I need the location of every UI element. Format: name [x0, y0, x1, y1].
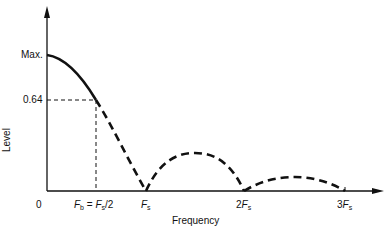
- series-solid-mainlobe: [47, 55, 96, 100]
- x-axis-arrow-icon: [372, 188, 384, 194]
- series-dashed-lobe-3: [244, 177, 345, 191]
- chart-plot-area: [0, 0, 388, 230]
- xtick-fb: Fb = Fs/2: [74, 200, 113, 211]
- xtick-fb-eq: =: [84, 199, 95, 210]
- series-dashed-lobe-2: [146, 153, 244, 191]
- series-dashed-mainlobe-tail: [96, 100, 146, 191]
- xtick-fb-tail: /2: [105, 199, 113, 210]
- xtick-fs: Fs: [141, 200, 151, 211]
- xtick-3fs: 3Fs: [337, 200, 352, 211]
- ytick-064: 0.64: [23, 95, 42, 105]
- xtick-3fs-sub: s: [349, 204, 353, 211]
- xtick-2fs-sub: s: [248, 204, 252, 211]
- xtick-2fs: 2Fs: [236, 200, 251, 211]
- ytick-max: Max.: [21, 50, 43, 60]
- x-axis-label: Frequency: [172, 216, 219, 226]
- y-axis-arrow-icon: [44, 6, 50, 18]
- xtick-fs-sub: s: [147, 204, 151, 211]
- y-axis-label: Level: [2, 128, 12, 152]
- xtick-zero: 0: [36, 200, 42, 210]
